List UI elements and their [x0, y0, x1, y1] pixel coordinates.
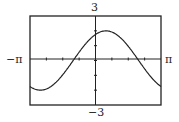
plot — [0, 0, 179, 122]
x-min-label: −π — [6, 54, 22, 65]
x-max-label: π — [165, 54, 172, 65]
y-min-label: −3 — [88, 107, 104, 118]
y-max-label: 3 — [91, 2, 98, 13]
